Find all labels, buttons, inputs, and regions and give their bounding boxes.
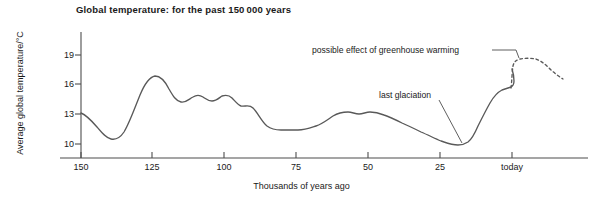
plot-area bbox=[0, 0, 603, 203]
x-tick-marks bbox=[81, 152, 512, 158]
y-tick-marks bbox=[75, 55, 81, 144]
temperature-curve bbox=[81, 69, 514, 145]
last-glaciation-annotation-leader bbox=[439, 100, 462, 143]
chart-figure: Global temperature: for the past 150 000… bbox=[0, 0, 603, 203]
greenhouse-projection-curve bbox=[511, 58, 563, 88]
greenhouse-annotation-leader bbox=[492, 50, 519, 58]
